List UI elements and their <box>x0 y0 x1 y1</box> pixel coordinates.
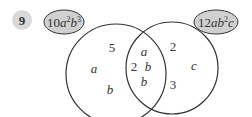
question-number: 9 <box>19 13 26 28</box>
left-only-factor-3: b <box>107 82 114 97</box>
venn-diagram: 9 10a2b3 12ab2c 5 a b a 2 b b 2 c 3 <box>0 0 252 117</box>
right-only-factor-1: 2 <box>170 39 177 54</box>
intersection-factor-4: b <box>141 74 148 89</box>
left-set-label: 10a2b3 <box>47 15 81 30</box>
right-only-factor-3: 3 <box>170 77 177 92</box>
right-only-factor-2: c <box>191 58 197 73</box>
intersection-factor-1: a <box>141 44 148 59</box>
right-set-circle <box>126 22 218 114</box>
left-only-factor-2: a <box>91 61 98 76</box>
left-only-factor-1: 5 <box>109 40 116 55</box>
right-set-label: 12ab2c <box>198 15 234 30</box>
intersection-factor-2: 2 <box>131 59 138 74</box>
intersection-factor-3: b <box>145 59 152 74</box>
